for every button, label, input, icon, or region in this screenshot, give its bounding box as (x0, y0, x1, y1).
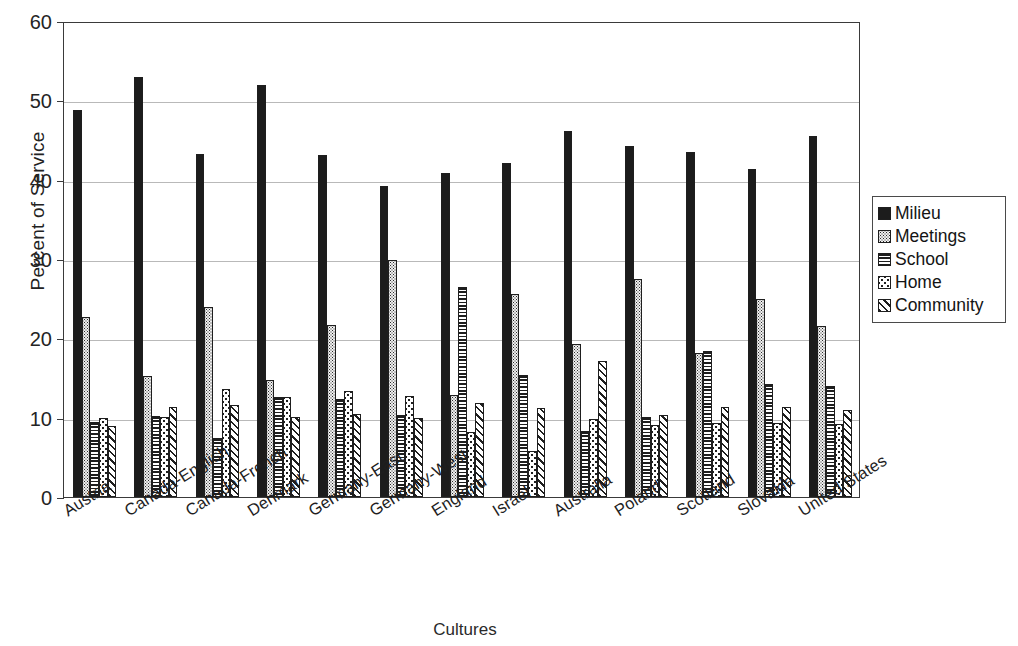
bar-group (800, 23, 861, 497)
bar (572, 344, 581, 497)
bar (817, 326, 826, 497)
y-axis-tick-label: 10 (0, 407, 52, 430)
bar (511, 294, 520, 497)
bar (519, 375, 528, 497)
bar (564, 131, 573, 497)
y-axis-tick-label: 20 (0, 328, 52, 351)
legend-swatch-icon (878, 299, 891, 312)
bar-group (309, 23, 370, 497)
bar (441, 173, 450, 497)
chart-legend: MilieuMeetingsSchoolHomeCommunity (872, 196, 1006, 323)
bar-group (248, 23, 309, 497)
bar-group (554, 23, 615, 497)
bar-chart: Percent of Service 0102030405060 Austria… (0, 0, 1018, 646)
legend-item: Meetings (878, 225, 1001, 248)
bar (502, 163, 511, 497)
legend-swatch-icon (878, 276, 891, 289)
bar (327, 325, 336, 497)
bar-group (432, 23, 493, 497)
bar (134, 77, 143, 497)
bar-group (738, 23, 799, 497)
bar (380, 186, 389, 497)
bar (82, 317, 91, 497)
bar-group (677, 23, 738, 497)
legend-label: Community (895, 297, 984, 315)
plot-area (63, 22, 860, 498)
legend-item: Milieu (878, 202, 1001, 225)
bar (266, 380, 275, 497)
x-axis-title: Cultures (0, 620, 930, 640)
legend-label: School (895, 251, 949, 269)
y-axis-tick-label: 60 (0, 11, 52, 34)
bar (625, 146, 634, 497)
bar-group (125, 23, 186, 497)
bar (809, 136, 818, 497)
bar (634, 279, 643, 497)
bar-group (493, 23, 554, 497)
bar (318, 155, 327, 497)
y-axis-tick-label: 50 (0, 90, 52, 113)
y-axis-tick-label: 40 (0, 169, 52, 192)
y-axis-title: Percent of Service (27, 91, 49, 331)
bar (257, 85, 266, 497)
y-axis-tick-mark (57, 498, 64, 499)
legend-swatch-icon (878, 253, 891, 266)
y-axis-tick-label: 0 (0, 487, 52, 510)
bar (695, 353, 704, 497)
legend-item: Community (878, 294, 1001, 317)
legend-item: Home (878, 271, 1001, 294)
legend-swatch-icon (878, 230, 891, 243)
bar-group (64, 23, 125, 497)
y-axis-tick-label: 30 (0, 249, 52, 272)
legend-label: Milieu (895, 205, 941, 223)
legend-item: School (878, 248, 1001, 271)
bar (686, 152, 695, 497)
bar (703, 351, 712, 497)
bar (528, 451, 537, 497)
bar (537, 408, 546, 497)
bar-group (187, 23, 248, 497)
bar (748, 169, 757, 497)
bar (143, 376, 152, 497)
bar (196, 154, 205, 497)
bar-group (371, 23, 432, 497)
legend-label: Meetings (895, 228, 966, 246)
bar (73, 110, 82, 497)
legend-label: Home (895, 274, 942, 292)
bar-group (616, 23, 677, 497)
bar (756, 299, 765, 497)
legend-swatch-icon (878, 207, 891, 220)
